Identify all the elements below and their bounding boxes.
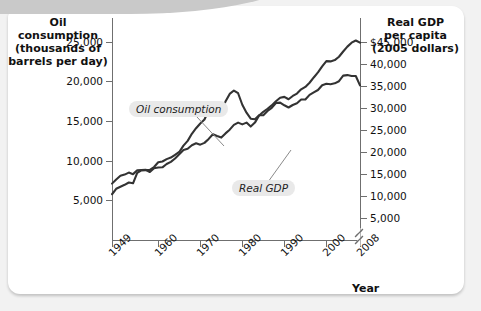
figure-container: Oil consumption (thousands of barrels pe… — [0, 0, 481, 311]
real-gdp-callout: Real GDP — [232, 180, 295, 196]
oil-consumption-callout: Oil consumption — [129, 101, 228, 117]
callout-leader-lines — [0, 0, 481, 311]
